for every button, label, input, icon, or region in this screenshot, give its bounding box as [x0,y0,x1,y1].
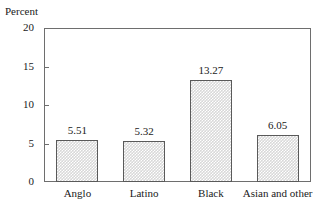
x-axis-label: Anglo [64,186,92,200]
x-axis-label: Latino [130,186,159,200]
bar: 5.32 [123,141,165,182]
y-tick-label: 5 [29,137,35,150]
bar-chart: Percent 05101520 5.515.3213.276.05 Anglo… [0,0,322,208]
x-axis-label: Asian and other [243,186,313,200]
x-axis-label: Black [198,186,224,200]
bar-value-label: 6.05 [268,119,287,132]
bar: 5.51 [56,140,98,182]
y-tick-label: 20 [23,21,34,34]
bar-value-label: 5.51 [68,124,87,137]
bar: 6.05 [257,135,299,182]
bar: 13.27 [190,80,232,182]
bar-value-label: 5.32 [135,125,154,138]
bars-layer: 5.515.3213.276.05 [44,28,311,182]
y-tick-label: 0 [29,175,35,188]
y-tick-label: 10 [23,98,34,111]
y-tick-label: 15 [23,60,34,73]
bar-value-label: 13.27 [199,64,224,77]
x-axis-labels: AngloLatinoBlackAsian and other [44,186,311,206]
y-axis-title: Percent [5,5,38,18]
